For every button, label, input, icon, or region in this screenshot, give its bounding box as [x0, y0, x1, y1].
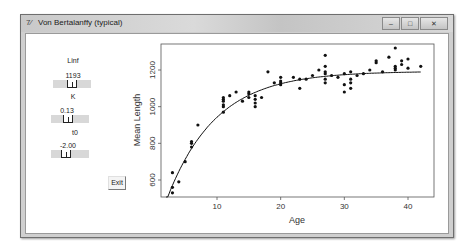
- y-tick-label: 1000: [148, 97, 157, 115]
- data-point: [375, 59, 378, 62]
- x-axis-label: Age: [289, 215, 305, 225]
- y-tick-label: 600: [148, 173, 157, 187]
- data-point: [266, 70, 269, 73]
- y-axis-label: Mean Length: [132, 94, 142, 147]
- data-point: [279, 76, 282, 79]
- data-point: [171, 171, 174, 174]
- data-point: [336, 76, 339, 79]
- x-axis: 10203040: [213, 197, 413, 211]
- data-point: [400, 59, 403, 62]
- data-point: [241, 100, 244, 103]
- x-tick-label: 10: [213, 202, 222, 211]
- data-point: [190, 140, 193, 143]
- data-point: [254, 98, 257, 101]
- y-tick-label: 800: [148, 136, 157, 150]
- data-point: [222, 103, 225, 106]
- data-point: [349, 87, 352, 90]
- data-point: [311, 74, 314, 77]
- data-point: [349, 78, 352, 81]
- data-point: [254, 101, 257, 104]
- growth-chart: 10203040 60080010001200 Age Mean Length: [0, 0, 471, 250]
- data-point: [247, 90, 250, 93]
- data-point: [400, 63, 403, 66]
- data-point: [177, 180, 180, 183]
- data-point: [343, 83, 346, 86]
- data-point: [317, 68, 320, 71]
- data-point: [260, 96, 263, 99]
- data-point: [228, 94, 231, 97]
- data-point: [324, 65, 327, 68]
- data-point: [254, 105, 257, 108]
- data-point: [254, 94, 257, 97]
- data-point: [368, 68, 371, 71]
- y-tick-label: 1200: [148, 61, 157, 79]
- data-point: [292, 76, 295, 79]
- x-tick-label: 30: [340, 202, 349, 211]
- data-point: [406, 67, 409, 70]
- data-point: [298, 87, 301, 90]
- data-point: [406, 57, 409, 60]
- data-point: [324, 54, 327, 57]
- plot-box: [161, 44, 434, 197]
- data-point: [324, 70, 327, 73]
- data-point: [222, 96, 225, 99]
- data-point: [324, 81, 327, 84]
- x-tick-label: 40: [404, 202, 413, 211]
- x-tick-label: 20: [276, 202, 285, 211]
- data-point: [394, 46, 397, 49]
- data-point: [196, 123, 199, 126]
- data-point: [387, 56, 390, 59]
- data-point: [279, 79, 282, 82]
- y-axis: 60080010001200: [148, 61, 161, 187]
- data-point: [171, 191, 174, 194]
- data-point: [349, 70, 352, 73]
- data-point: [324, 78, 327, 81]
- data-point: [235, 90, 238, 93]
- data-point: [349, 81, 352, 84]
- data-point: [273, 81, 276, 84]
- data-point: [419, 65, 422, 68]
- data-point: [394, 65, 397, 68]
- data-point: [343, 90, 346, 93]
